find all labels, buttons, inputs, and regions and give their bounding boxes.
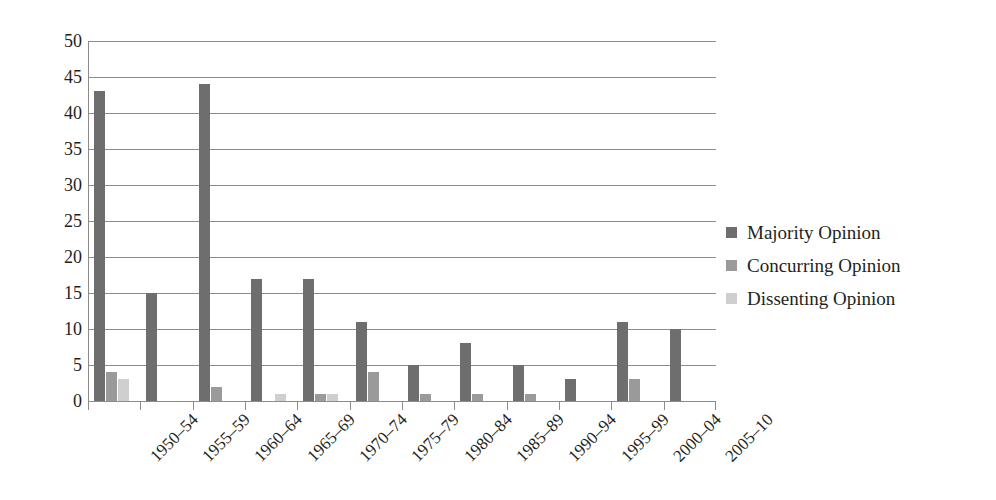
- bar-group: [507, 41, 559, 401]
- y-tick-label: 5: [38, 356, 82, 374]
- bar-group: [297, 41, 349, 401]
- bar[interactable]: [118, 379, 129, 401]
- bar[interactable]: [513, 365, 524, 401]
- x-tick-mark: [507, 401, 559, 410]
- legend-item[interactable]: Dissenting Opinion: [726, 282, 976, 315]
- x-tick-mark: [350, 401, 402, 410]
- x-tick-mark: [88, 401, 140, 410]
- bar-group: [245, 41, 297, 401]
- bar[interactable]: [472, 394, 483, 401]
- x-tick-label: 2005–10: [722, 410, 778, 466]
- bar[interactable]: [303, 279, 314, 401]
- legend-label: Majority Opinion: [747, 223, 881, 242]
- bar[interactable]: [106, 372, 117, 401]
- bar[interactable]: [420, 394, 431, 401]
- x-tick-mark: [297, 401, 349, 410]
- y-tick-label: 25: [38, 212, 82, 230]
- x-tick-label: 1950–54: [146, 410, 202, 466]
- bar-group: [350, 41, 402, 401]
- legend-label: Dissenting Opinion: [747, 289, 895, 308]
- bar-groups: [88, 41, 716, 401]
- legend-swatch-icon: [726, 227, 737, 238]
- bars: [356, 41, 392, 401]
- legend: Majority OpinionConcurring OpinionDissen…: [726, 216, 976, 315]
- bars: [460, 41, 496, 401]
- x-tick-mark: [664, 401, 716, 410]
- bar[interactable]: [356, 322, 367, 401]
- x-tick-label: 1990–94: [565, 410, 621, 466]
- x-tick-label: 1975–79: [408, 410, 464, 466]
- bars: [670, 41, 706, 401]
- bar-group: [88, 41, 140, 401]
- x-tick-label: 1970–74: [356, 410, 412, 466]
- bar[interactable]: [211, 387, 222, 401]
- bar[interactable]: [670, 329, 681, 401]
- x-tick-label: 1965–69: [303, 410, 359, 466]
- bar[interactable]: [315, 394, 326, 401]
- x-tick-label: 2000–04: [670, 410, 726, 466]
- y-tick-label: 20: [38, 248, 82, 266]
- bar-group: [193, 41, 245, 401]
- x-axis-ticks: [88, 401, 716, 410]
- bars: [146, 41, 182, 401]
- x-tick-mark: [245, 401, 297, 410]
- x-tick-label: 1985–89: [513, 410, 569, 466]
- bar-group: [664, 41, 716, 401]
- y-tick-label: 35: [38, 140, 82, 158]
- x-tick-mark: [611, 401, 663, 410]
- bars: [94, 41, 130, 401]
- bar-group: [454, 41, 506, 401]
- x-tick-label: 1960–64: [251, 410, 307, 466]
- bar[interactable]: [251, 279, 262, 401]
- bar-group: [611, 41, 663, 401]
- bars: [199, 41, 235, 401]
- x-tick-mark: [402, 401, 454, 410]
- x-tick-mark: [140, 401, 192, 410]
- chart-root: 50454035302520151050 1950–541955–591960–…: [0, 0, 996, 500]
- bars: [617, 41, 653, 401]
- x-tick-label: 1955–59: [199, 410, 255, 466]
- legend-item[interactable]: Majority Opinion: [726, 216, 976, 249]
- y-tick-label: 10: [38, 320, 82, 338]
- x-tick-mark: [193, 401, 245, 410]
- bar[interactable]: [565, 379, 576, 401]
- bars: [408, 41, 444, 401]
- x-axis-tick-labels: 1950–541955–591960–641965–691970–741975–…: [88, 410, 716, 498]
- x-tick-label: 1980–84: [460, 410, 516, 466]
- y-tick-label: 0: [38, 392, 82, 410]
- bar[interactable]: [327, 394, 338, 401]
- bar-group: [140, 41, 192, 401]
- legend-swatch-icon: [726, 293, 737, 304]
- plot-area: [88, 41, 716, 401]
- bars: [565, 41, 601, 401]
- bar[interactable]: [617, 322, 628, 401]
- bar[interactable]: [94, 91, 105, 401]
- bar[interactable]: [146, 293, 157, 401]
- legend-item[interactable]: Concurring Opinion: [726, 249, 976, 282]
- bar[interactable]: [275, 394, 286, 401]
- x-tick-mark-end: [715, 401, 716, 410]
- x-tick-mark: [454, 401, 506, 410]
- bar[interactable]: [408, 365, 419, 401]
- bar[interactable]: [629, 379, 640, 401]
- y-axis-tick-labels: 50454035302520151050: [36, 41, 82, 401]
- bar-group: [402, 41, 454, 401]
- bar[interactable]: [460, 343, 471, 401]
- y-tick-label: 40: [38, 104, 82, 122]
- y-tick-label: 50: [38, 32, 82, 50]
- bar[interactable]: [368, 372, 379, 401]
- y-tick-label: 45: [38, 68, 82, 86]
- y-tick-label: 30: [38, 176, 82, 194]
- bar[interactable]: [199, 84, 210, 401]
- legend-swatch-icon: [726, 260, 737, 271]
- x-tick-label: 1995–99: [617, 410, 673, 466]
- bar-group: [559, 41, 611, 401]
- bars: [303, 41, 339, 401]
- bar[interactable]: [525, 394, 536, 401]
- x-tick-mark: [559, 401, 611, 410]
- bars: [251, 41, 287, 401]
- bars: [513, 41, 549, 401]
- y-tick-label: 15: [38, 284, 82, 302]
- legend-label: Concurring Opinion: [747, 256, 901, 275]
